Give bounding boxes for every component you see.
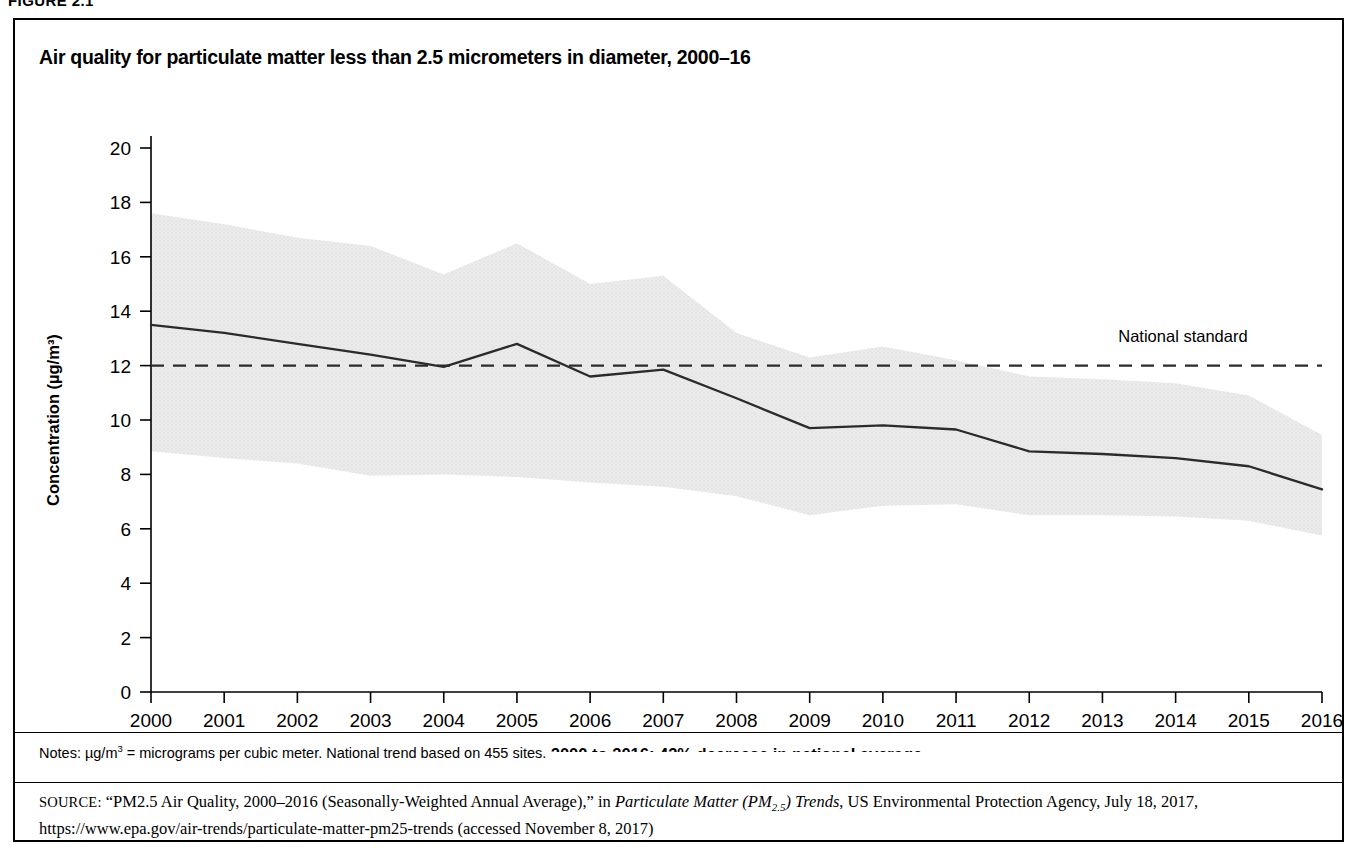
x-tick-label: 2006 [569,710,611,731]
source-part-1: “PM2.5 Air Quality, 2000–2016 (Seasonall… [102,792,615,811]
x-tick-label: 2002 [276,710,318,731]
source-italic-title: Particulate Matter (PM2.5) Trends [615,792,839,811]
x-tick-label: 2014 [1154,710,1197,731]
chart-plot-area: 02468101214161820 2000200120022003200420… [15,80,1342,752]
chart-title: Air quality for particulate matter less … [39,46,751,69]
y-tick-label: 0 [120,682,131,703]
notes-text: = micrograms per cubic meter. National t… [123,745,547,761]
x-tick-label: 2009 [789,710,831,731]
y-tick-label: 8 [120,464,131,485]
x-tick-label: 2016 [1301,710,1342,731]
source-label: SOURCE: [39,794,102,810]
percentile-band [151,213,1322,535]
x-tick-label: 2007 [642,710,684,731]
x-tick-label: 2012 [1008,710,1050,731]
y-tick-label: 14 [110,301,132,322]
x-tick-label: 2011 [936,710,977,731]
x-tick-label: 2004 [423,710,466,731]
source-italic-main: Particulate Matter (PM [615,792,772,811]
source-italic-end: ) Trends [785,792,839,811]
x-tick-label: 2013 [1081,710,1123,731]
notes-divider-top [15,732,1342,733]
x-tick-label: 2000 [130,710,172,731]
y-axis-ticks: 02468101214161820 [110,138,151,703]
figure-page: FIGURE 2.1 Air quality for particulate m… [0,0,1358,856]
figure-frame: Air quality for particulate matter less … [13,18,1344,842]
national-standard-label: National standard [1118,327,1247,345]
pm25-trend-chart: 02468101214161820 2000200120022003200420… [15,80,1342,752]
x-axis-ticks: 2000200120022003200420052006200720082009… [130,692,1342,731]
chart-source: SOURCE: “PM2.5 Air Quality, 2000–2016 (S… [39,791,1329,840]
x-axis-caption: 2000 to 2016: 42% decrease in national a… [551,745,922,752]
source-italic-subscript: 2.5 [772,801,786,813]
chart-notes: Notes: µg/m3 = micrograms per cubic mete… [39,743,546,761]
x-tick-label: 2003 [349,710,391,731]
figure-number: FIGURE 2.1 [8,0,94,9]
x-tick-label: 2015 [1228,710,1270,731]
percentile-band-area [151,213,1322,535]
y-tick-label: 12 [110,356,131,377]
y-tick-label: 18 [110,192,131,213]
y-tick-label: 16 [110,247,131,268]
y-axis-title: Concentration (µg/m³) [44,334,62,506]
x-tick-label: 2005 [496,710,538,731]
x-tick-label: 2008 [715,710,757,731]
y-tick-label: 4 [120,573,131,594]
notes-prefix: Notes: µg/m [39,745,117,761]
x-tick-label: 2010 [862,710,904,731]
y-tick-label: 6 [120,519,131,540]
y-tick-label: 10 [110,410,131,431]
y-tick-label: 2 [120,628,131,649]
source-divider [15,782,1342,783]
y-tick-label: 20 [110,138,131,159]
x-tick-label: 2001 [203,710,245,731]
